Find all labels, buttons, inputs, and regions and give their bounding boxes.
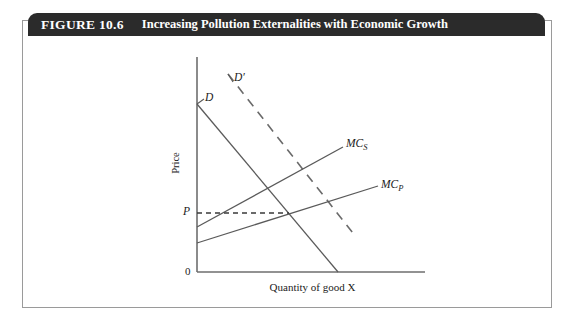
price-level-label-text: P bbox=[183, 205, 190, 217]
mc-social-curve-label: MCS bbox=[346, 137, 368, 152]
figure-title: Increasing Pollution Externalities with … bbox=[142, 17, 448, 32]
mc-private-curve-label: MCP bbox=[381, 178, 403, 193]
x-axis-title-text: Quantity of good X bbox=[270, 281, 356, 293]
mc-social-label-main: MC bbox=[346, 137, 363, 149]
mc-social-label-sub: S bbox=[363, 142, 367, 152]
mc-private-label-main: MC bbox=[381, 178, 398, 190]
figure-header-bar: FIGURE 10.6 Increasing Pollution Externa… bbox=[28, 13, 545, 36]
figure-page: FIGURE 10.6 Increasing Pollution Externa… bbox=[0, 0, 572, 326]
figure-frame bbox=[22, 20, 552, 308]
price-level-label: P bbox=[183, 205, 190, 217]
y-axis-title-text: Price bbox=[170, 152, 181, 174]
demand-curve-label-text: D bbox=[205, 91, 213, 103]
mc-private-label-sub: P bbox=[398, 183, 403, 193]
demand-prime-curve-label-text: D′ bbox=[234, 71, 245, 83]
x-axis-title: Quantity of good X bbox=[250, 281, 375, 293]
origin-label: 0 bbox=[185, 265, 191, 277]
demand-curve-label: D bbox=[205, 91, 213, 103]
demand-prime-curve-label: D′ bbox=[234, 71, 245, 83]
figure-number-label: FIGURE 10.6 bbox=[41, 17, 124, 33]
origin-label-text: 0 bbox=[185, 265, 191, 277]
y-axis-title: Price bbox=[152, 152, 198, 174]
